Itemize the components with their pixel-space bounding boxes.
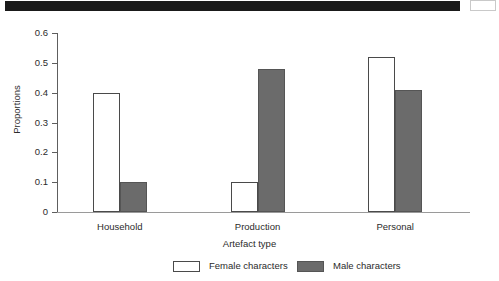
y-axis-title: Proportions <box>11 60 22 160</box>
legend-swatch-female-icon <box>173 261 200 272</box>
y-tick-label: 0.1 <box>10 177 48 187</box>
y-tick-label-text: 0 <box>10 207 48 217</box>
x-category-label-production: Production <box>235 221 280 232</box>
x-category-label-personal: Personal <box>376 221 414 232</box>
y-tick-label: 0.6 <box>10 28 48 38</box>
bar-chart-figure: 00.10.20.30.40.50.6 Proportions Househol… <box>0 0 499 281</box>
legend-item-female: Female characters <box>173 258 288 274</box>
x-category-label-household: Household <box>97 221 142 232</box>
x-axis-title: Artefact type <box>0 238 499 249</box>
y-tick-mark <box>52 123 57 124</box>
legend-label-female: Female characters <box>209 261 288 271</box>
legend-item-male: Male characters <box>297 258 401 274</box>
bar-production-female <box>231 182 258 212</box>
y-tick-label: 0 <box>10 207 48 217</box>
y-tick-mark <box>52 93 57 94</box>
y-axis-line <box>57 33 58 213</box>
x-axis-line <box>57 212 470 213</box>
y-tick-label-text: 0.1 <box>10 177 48 187</box>
y-tick-mark <box>52 63 57 64</box>
bar-household-male <box>120 182 147 212</box>
y-tick-mark <box>52 33 57 34</box>
bar-production-male <box>258 69 285 212</box>
bar-household-female <box>93 93 120 212</box>
y-tick-mark <box>52 152 57 153</box>
y-tick-mark <box>52 212 57 213</box>
legend-label-male: Male characters <box>333 261 401 271</box>
bar-personal-female <box>368 57 395 212</box>
y-tick-mark <box>52 182 57 183</box>
y-tick-label-text: 0.6 <box>10 28 48 38</box>
bar-personal-male <box>395 90 422 212</box>
chart-legend: Female characters Male characters <box>0 258 499 276</box>
legend-swatch-male-icon <box>297 261 324 272</box>
